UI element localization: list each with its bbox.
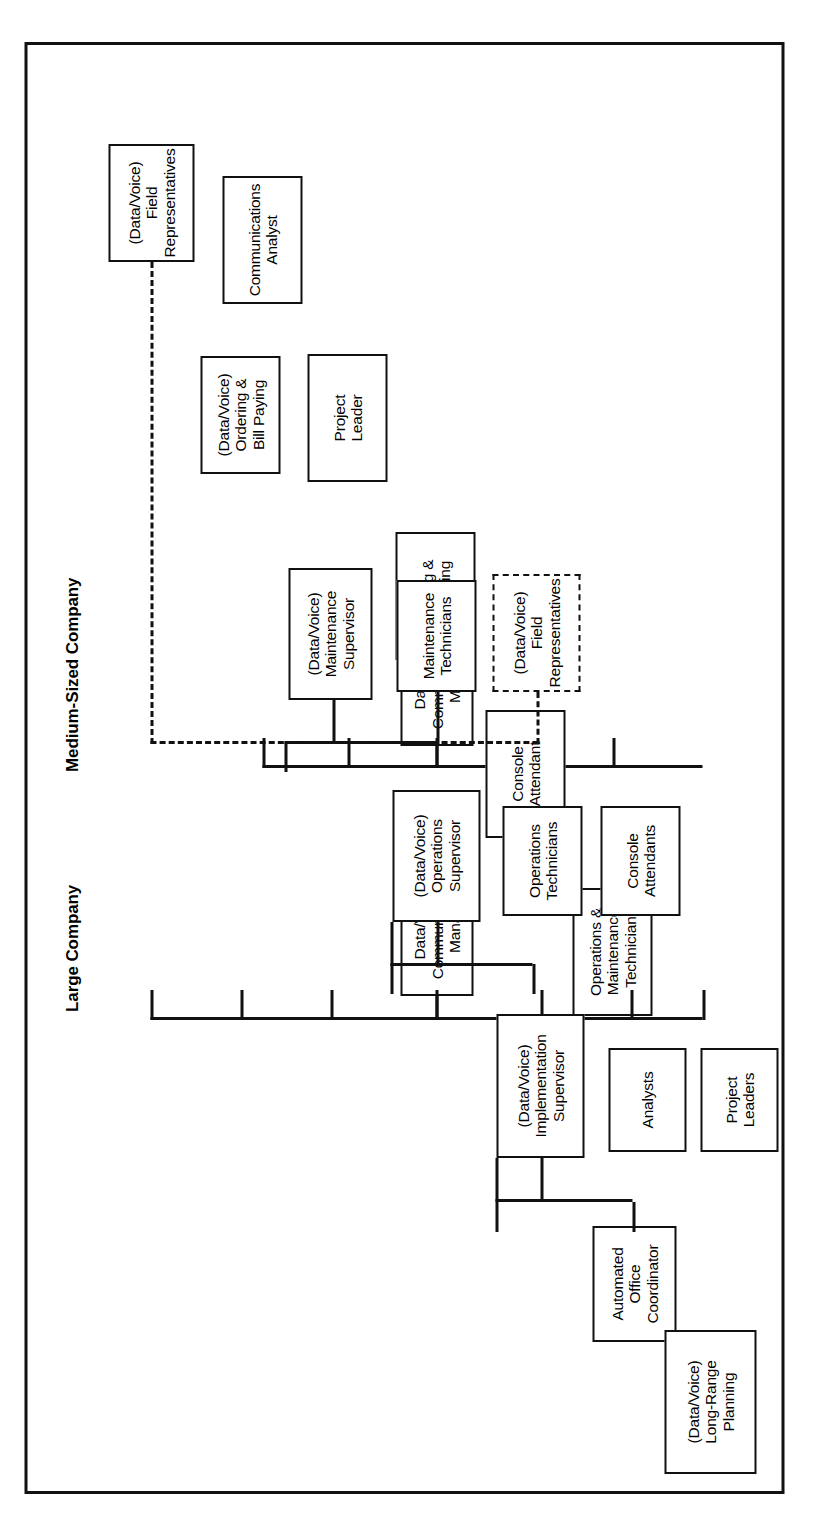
connector-maintenance-tech-stem: [436, 692, 439, 744]
connector-large-child-1: [630, 990, 633, 1020]
node-large-dotted-field-representatives[interactable]: (Data/Voice) Field Representatives: [492, 574, 580, 692]
connector-implementation-up: [495, 1158, 498, 1202]
node-large-child-ordering-bill-paying[interactable]: (Data/Voice) Ordering & Bill Paying: [200, 356, 280, 474]
node-large-operations-report-operations-technicians[interactable]: Operations Technicians: [502, 806, 582, 916]
section-caption-medium: Medium-Sized Company: [62, 578, 82, 772]
node-large-maintenance-report-maintenance-technicians[interactable]: Maintenance Technicians: [396, 580, 476, 692]
section-caption-large: Large Company: [62, 885, 82, 1012]
connector-implementation-bus: [540, 1199, 632, 1202]
connector-dashed-to-top-field-reps: [150, 262, 153, 744]
connector-large-child-5: [240, 990, 243, 1020]
connector-operations-bus: [436, 963, 532, 966]
node-large-child-operations-supervisor[interactable]: (Data/Voice) Operations Supervisor: [392, 790, 480, 922]
connector-medium-child-4: [612, 738, 615, 768]
node-large-operations-report-console-attendants[interactable]: Console Attendants: [600, 806, 680, 916]
connector-operations-report-0: [390, 964, 393, 994]
node-large-child-maintenance-supervisor[interactable]: (Data/Voice) Maintenance Supervisor: [288, 568, 372, 700]
connector-operations-stem: [436, 922, 439, 966]
node-large-implementation-report-project-leaders[interactable]: Project Leaders: [700, 1048, 778, 1152]
connector-maintenance-report-0: [284, 742, 287, 772]
connector-large-bus: [150, 1017, 702, 1020]
figure-rotator: Medium-Sized Company Data/Voice Communic…: [0, 0, 835, 1532]
connector-operations-bus-up: [390, 963, 438, 966]
connector-large-child-6: [150, 990, 153, 1020]
connector-maintenance-stem: [332, 700, 335, 744]
connector-dashed-to-field-reps: [536, 692, 539, 744]
node-large-child-field-representatives[interactable]: (Data/Voice) Field Representatives: [108, 144, 194, 262]
node-large-child-automated-office-coordinator[interactable]: Automated Office Coordinator: [592, 1226, 676, 1342]
connector-operations-report-1: [532, 964, 535, 994]
node-medium-child-communications-analyst[interactable]: Communications Analyst: [222, 176, 302, 304]
connector-large-child-3: [435, 990, 438, 1020]
connector-large-child-0: [702, 990, 705, 1020]
node-large-child-implementation-supervisor[interactable]: (Data/Voice) Implementation Supervisor: [496, 1014, 584, 1158]
connector-large-child-4: [330, 990, 333, 1020]
connector-operations-up: [390, 922, 393, 966]
node-large-child-long-range-planning[interactable]: (Data/Voice) Long-Range Planning: [664, 1330, 756, 1474]
node-medium-child-project-leader[interactable]: Project Leader: [307, 354, 387, 482]
figure-canvas: Medium-Sized Company Data/Voice Communic…: [0, 0, 835, 1532]
connector-implementation-report-1: [632, 1202, 635, 1232]
connector-implementation-bus-up: [495, 1199, 543, 1202]
connector-implementation-stem: [540, 1158, 543, 1202]
node-large-implementation-report-analysts[interactable]: Analysts: [608, 1048, 686, 1152]
connector-medium-bus: [262, 765, 702, 768]
connector-dashed-vertical: [150, 741, 538, 744]
connector-implementation-report-0: [495, 1202, 498, 1232]
